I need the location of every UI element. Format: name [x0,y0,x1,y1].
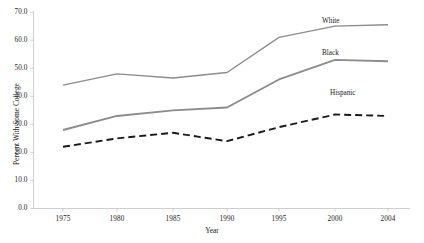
x-axis-tick-label: 1975 [43,215,83,223]
x-axis-tick-label: 1985 [153,215,193,223]
x-axis-tick-label: 1995 [259,215,299,223]
series-label-white: White [322,17,340,25]
series-line-hispanic [63,115,388,147]
x-axis-tick-label: 1990 [207,215,247,223]
series-line-white [63,25,388,85]
x-axis-tick-label: 2000 [315,215,355,223]
y-axis-tick-label: 50.0 [0,64,28,72]
chart-container: 0.010.020.030.040.050.060.070.0 19751980… [0,0,424,243]
series-label-black: Black [322,49,339,57]
y-axis-tick-label: 10.0 [0,176,28,184]
series-group [63,25,388,147]
x-axis-title: Year [0,226,424,235]
y-axis-tick-label: 60.0 [0,36,28,44]
axis-group [31,11,411,211]
y-axis-tick-label: 0.0 [0,204,28,212]
x-axis-tick-label: 2004 [368,215,408,223]
x-axis-tick-label: 1980 [97,215,137,223]
y-axis-tick-label: 70.0 [0,8,28,16]
y-axis-title: Percent With Some College [12,83,21,165]
line-chart-plot [0,0,424,243]
series-label-hispanic: Hispanic [330,89,356,97]
